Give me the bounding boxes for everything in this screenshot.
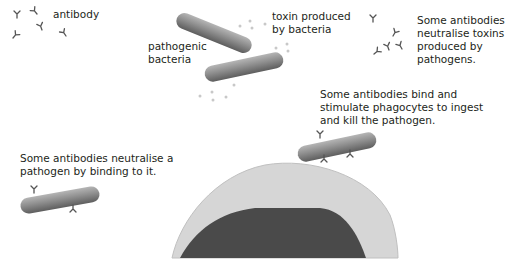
phagocytes-label: Some antibodies bind and stimulate phago… xyxy=(320,88,483,127)
toxin-label: toxin produced by bacteria xyxy=(272,10,351,36)
toxin-antibody-icons xyxy=(370,15,405,56)
neutralise-toxins-label: Some antibodies neutralise toxins produc… xyxy=(417,14,505,66)
neutralised-bacterium xyxy=(19,185,101,215)
phagocyte xyxy=(172,163,398,258)
antibody-label: antibody xyxy=(53,8,99,21)
pathogenic-bacteria-label: pathogenic bacteria xyxy=(148,40,207,66)
opsonised-bacterium xyxy=(296,131,378,163)
neutralise-pathogen-label: Some antibodies neutralise a pathogen by… xyxy=(20,152,173,178)
